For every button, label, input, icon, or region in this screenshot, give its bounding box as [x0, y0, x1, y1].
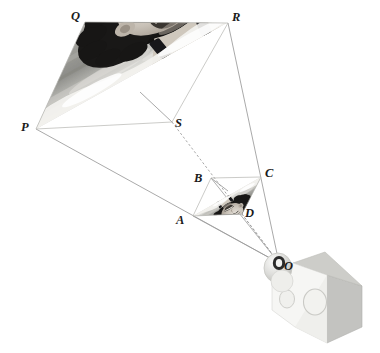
camera-dial-small	[280, 290, 295, 308]
vertex-label-d: D	[244, 206, 254, 220]
vertex-label-r: R	[231, 10, 240, 24]
vertex-label-q: Q	[71, 9, 80, 23]
vertex-label-b: B	[193, 171, 202, 185]
pinhole-camera	[264, 252, 362, 343]
ray-fan-a	[193, 216, 279, 263]
ray-s-segment	[140, 92, 172, 122]
image-plane-abcd	[193, 177, 277, 241]
ray-r-o	[228, 23, 279, 263]
ray-s-o	[172, 122, 279, 263]
camera-lens-barrel-neck	[271, 270, 293, 292]
diagram-root: P Q R S A B C D O	[0, 0, 380, 353]
camera-aperture-inner	[276, 259, 282, 267]
camera-side-face	[327, 275, 362, 343]
object-plane-pqrs	[0, 0, 306, 129]
vertex-label-p: P	[21, 120, 29, 134]
vertex-label-o: O	[284, 259, 293, 273]
camera-dial-large	[304, 289, 327, 315]
vertex-label-a: A	[175, 213, 184, 227]
vertex-label-c: C	[265, 166, 274, 180]
vertex-label-s: S	[175, 116, 182, 130]
projection-diagram: P Q R S A B C D O	[0, 0, 380, 353]
